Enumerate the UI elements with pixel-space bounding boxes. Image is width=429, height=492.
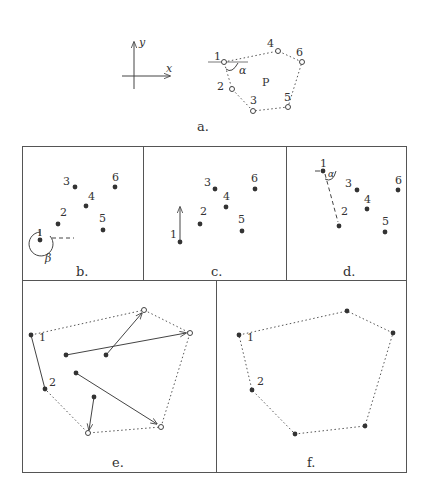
point-label-1: 1 bbox=[39, 331, 46, 344]
point-label-2: 2 bbox=[60, 206, 67, 219]
point-label-1: 1 bbox=[37, 228, 43, 238]
angle-alpha-label: α bbox=[239, 64, 247, 77]
point-label-4: 4 bbox=[223, 190, 230, 203]
point-label-5: 5 bbox=[99, 212, 106, 225]
panel-d-caption: d. bbox=[343, 264, 355, 279]
panel-b-caption: b. bbox=[76, 264, 88, 279]
point-label-3: 3 bbox=[345, 177, 352, 190]
angle-beta-label: β bbox=[44, 252, 51, 265]
panel-c-caption: c. bbox=[211, 264, 222, 279]
point-label-1: 1 bbox=[320, 157, 327, 170]
point-label-1: 1 bbox=[214, 50, 221, 63]
point-label-1: 1 bbox=[170, 228, 177, 241]
point-label-2: 2 bbox=[200, 205, 207, 218]
panel-c: 1 2 3 4 5 6 c. bbox=[170, 172, 258, 279]
polygon-p: α P 1 2 3 4 5 6 bbox=[208, 37, 305, 114]
point-label-5: 5 bbox=[238, 213, 245, 226]
coordinate-axes: x y bbox=[122, 36, 173, 89]
point-label-4: 4 bbox=[267, 37, 274, 50]
angle-alpha-label: α bbox=[328, 169, 334, 179]
panel-frames bbox=[23, 147, 407, 473]
point-label-2: 2 bbox=[49, 376, 56, 389]
point-label-3: 3 bbox=[204, 176, 211, 189]
x-axis-label: x bbox=[166, 62, 173, 75]
point-label-4: 4 bbox=[364, 193, 371, 206]
point-label-2: 2 bbox=[257, 375, 264, 388]
point-label-6: 6 bbox=[251, 172, 258, 185]
panel-f: 1 2 f. bbox=[237, 309, 396, 470]
point-label-6: 6 bbox=[112, 171, 119, 184]
point-label-2: 2 bbox=[217, 80, 224, 93]
point-label-5: 5 bbox=[284, 91, 291, 104]
point-label-6: 6 bbox=[395, 174, 402, 187]
panel-a: x y α P 1 2 3 4 5 6 a. bbox=[122, 36, 305, 134]
y-axis-label: y bbox=[138, 36, 146, 49]
convex-hull-figure: x y α P 1 2 3 4 5 6 a. bbox=[0, 0, 429, 492]
point-label-6: 6 bbox=[296, 46, 303, 59]
panel-a-caption: a. bbox=[197, 119, 209, 134]
point-label-3: 3 bbox=[63, 175, 70, 188]
point-label-1: 1 bbox=[247, 331, 254, 344]
panel-d: α 1 2 3 4 5 6 d. bbox=[315, 157, 402, 279]
panel-e-caption: e. bbox=[112, 455, 124, 470]
polygon-label: P bbox=[262, 76, 270, 89]
point-label-2: 2 bbox=[341, 205, 348, 218]
panel-e: 1 2 e. bbox=[29, 308, 193, 471]
panel-b: β 1 2 3 4 5 6 b. bbox=[29, 171, 119, 279]
panel-f-caption: f. bbox=[307, 455, 315, 470]
point-label-4: 4 bbox=[88, 190, 95, 203]
point-label-3: 3 bbox=[250, 94, 257, 107]
point-label-5: 5 bbox=[382, 215, 389, 228]
